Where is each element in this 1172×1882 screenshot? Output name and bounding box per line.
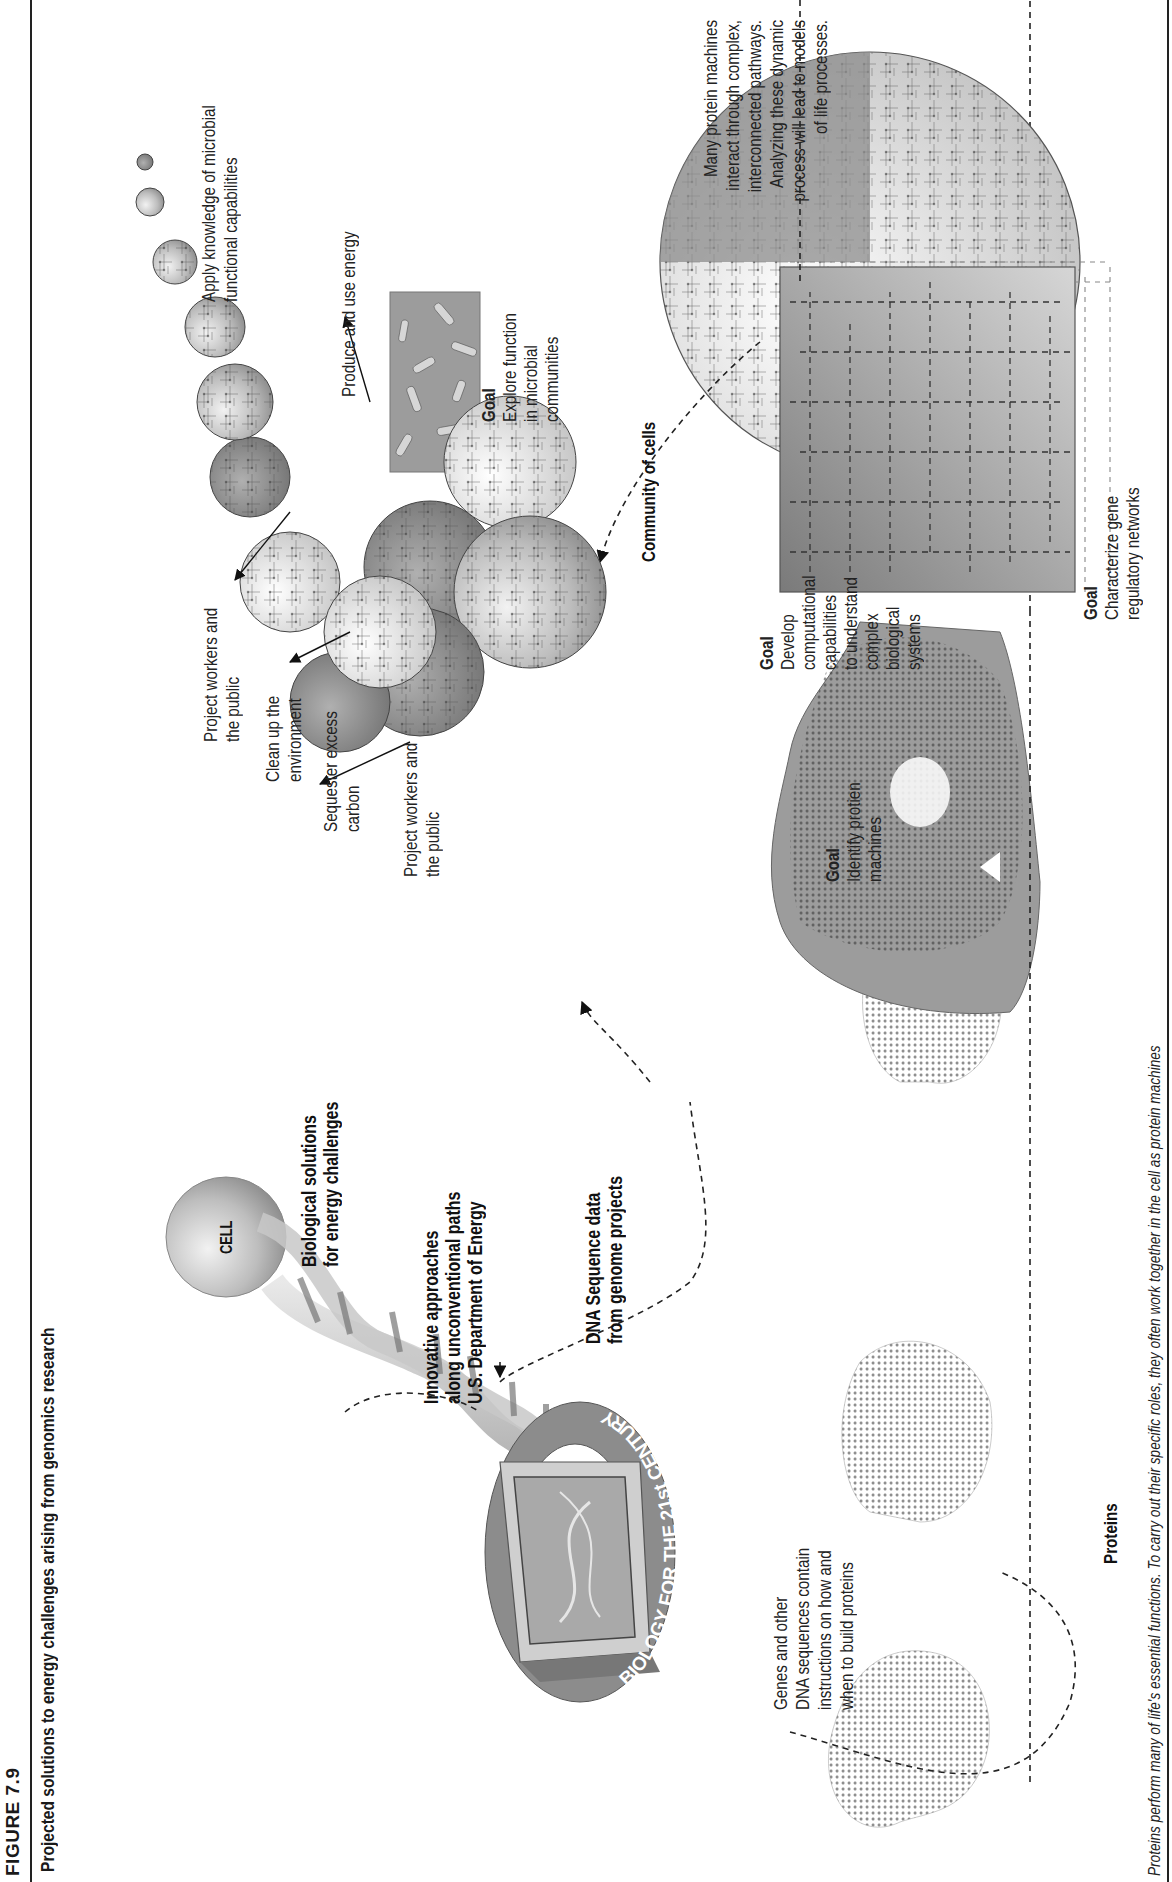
sequester-carbon-label: Sequester excess carbon xyxy=(320,711,364,832)
clean-up-label: Clean up the environment xyxy=(262,696,306,782)
goal-microbial: Goal Explore function in microbial commu… xyxy=(478,313,562,422)
dna-sequence-headline: DNA Sequence data from genome projects xyxy=(582,1176,626,1344)
figure-page: FIGURE 7.9 Projected solutions to energy… xyxy=(0,0,1172,1882)
biological-solutions-headline: Biological solutions for energy challeng… xyxy=(298,1102,342,1267)
goal-computational: Goal Develop computational capabilities … xyxy=(756,575,924,670)
pathways-note: Many protein machines interact through c… xyxy=(700,20,832,202)
goal-gene-networks: Goal Characterize gene regulatory networ… xyxy=(1080,487,1143,620)
cell-label: CELL xyxy=(218,1221,236,1254)
proteins-label: Proteins xyxy=(1102,1503,1120,1564)
figure-caption: Proteins perform many of life's essentia… xyxy=(1146,1045,1164,1876)
produce-energy-label: Produce and use energy xyxy=(340,231,358,397)
community-of-cells-label: Community of cells xyxy=(640,422,658,562)
goal-protein-machines: Goal Identify protien machines xyxy=(822,782,885,882)
gene-network-panel xyxy=(780,262,1110,592)
to-proteins-arrow xyxy=(582,1002,650,1082)
apply-knowledge-label: Apply knowledge of microbial functional … xyxy=(198,105,242,302)
protein-blob-2 xyxy=(842,1341,992,1522)
genes-note: Genes and other DNA sequences contain in… xyxy=(770,1548,858,1710)
project-workers-label-1: Project workers and the public xyxy=(200,608,244,742)
innovative-approaches-headline: Innovative approaches along unconvention… xyxy=(420,1192,486,1404)
diagram-graphics: BIOLOGY FOR THE 21st CENTURY xyxy=(0,0,1172,1882)
protein-machine-graphic xyxy=(771,622,1040,1014)
project-workers-label-2: Project workers and the public xyxy=(400,743,444,877)
